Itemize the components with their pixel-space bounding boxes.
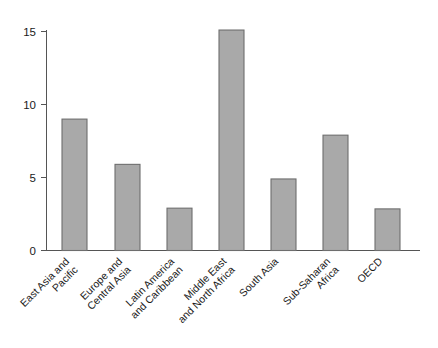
chart-canvas: 0 5 10 15 East Asia and Pacific — [0, 0, 438, 348]
bar-south-asia[interactable] — [271, 179, 296, 251]
bar-europe-and-central-asia[interactable] — [115, 164, 140, 250]
x-label-line-0: OECD — [354, 255, 384, 285]
y-axis-tick-labels: 0 5 10 15 — [23, 26, 36, 257]
bar-series — [62, 30, 400, 250]
x-label-line-0: South Asia — [236, 255, 280, 299]
bar-chart: 0 5 10 15 East Asia and Pacific — [0, 0, 438, 348]
plot-area: 0 5 10 15 East Asia and Pacific — [0, 0, 438, 348]
x-axis-category-labels: East Asia and Pacific Europe and Central… — [18, 255, 385, 326]
x-label-oecd: OECD — [354, 255, 384, 285]
y-axis-ticks — [41, 32, 47, 251]
bar-east-asia-and-pacific[interactable] — [62, 119, 87, 250]
x-label-south-asia: South Asia — [236, 255, 280, 299]
y-tick-label-10: 10 — [23, 99, 36, 111]
y-tick-label-0: 0 — [30, 245, 36, 257]
x-label-europe-and-central-asia: Europe and Central Asia — [76, 255, 133, 312]
bar-middle-east-and-north-africa[interactable] — [219, 30, 244, 250]
bar-latin-america-and-caribbean[interactable] — [167, 208, 192, 250]
y-tick-label-5: 5 — [30, 172, 36, 184]
x-label-sub-saharan-africa: Sub-Saharan Africa — [280, 255, 341, 316]
bar-oecd[interactable] — [375, 209, 400, 251]
bar-sub-saharan-africa[interactable] — [323, 135, 348, 250]
y-tick-label-15: 15 — [23, 26, 36, 38]
x-label-east-asia-and-pacific: East Asia and Pacific — [18, 255, 80, 317]
x-label-latin-america-and-caribbean: Latin America and Caribbean — [119, 255, 185, 321]
